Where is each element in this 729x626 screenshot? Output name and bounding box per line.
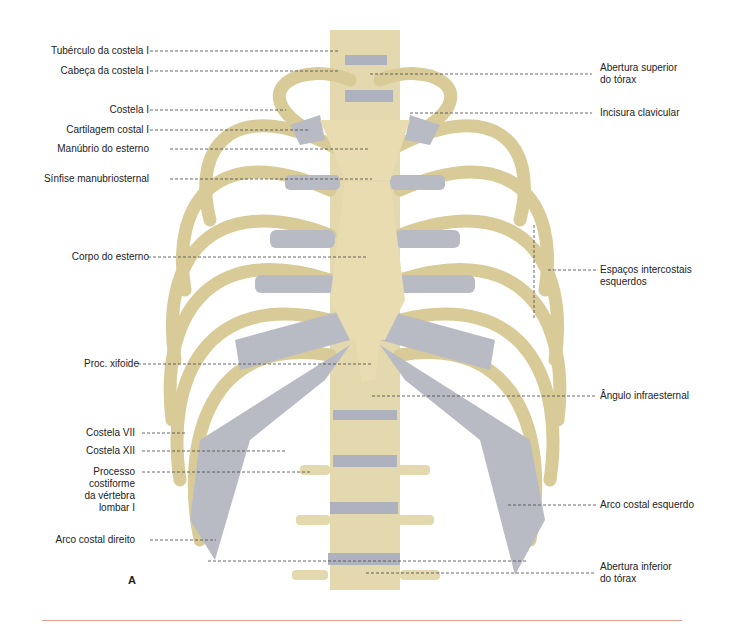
thoracic-cage-illustration [0, 0, 729, 626]
label-sinfise-manubriosternal: Sínfise manubriosternal [44, 173, 149, 185]
panel-label: A [128, 574, 136, 586]
label-cartilagem-costal-i: Cartilagem costal I [66, 124, 149, 136]
label-processo-costiforme: Processo costiforme da vértebra lombar I [84, 466, 135, 514]
label-angulo-infraesternal: Ângulo infraesternal [600, 390, 689, 402]
label-tuberculo-costela-i: Tubérculo da costela I [51, 45, 149, 57]
label-arco-costal-direito: Arco costal direito [56, 534, 135, 546]
label-cabeca-costela-i: Cabeça da costela I [61, 65, 149, 77]
label-costela-xii: Costela XII [86, 445, 135, 457]
label-costela-vii: Costela VII [86, 427, 135, 439]
bottom-rule [42, 620, 682, 621]
label-manubrio-esterno: Manúbrio do esterno [57, 143, 149, 155]
label-arco-costal-esquerdo: Arco costal esquerdo [600, 499, 694, 511]
label-abertura-inferior-torax: Abertura inferior do tórax [600, 561, 672, 585]
label-costela-i: Costela I [110, 104, 149, 116]
label-abertura-superior-torax: Abertura superior do tórax [600, 62, 677, 86]
label-corpo-esterno: Corpo do esterno [72, 251, 149, 263]
label-proc-xifoide: Proc. xifoide [84, 358, 139, 370]
label-espacos-intercostais: Espaços intercostais esquerdos [600, 264, 692, 288]
label-incisura-clavicular: Incisura clavicular [600, 107, 679, 119]
